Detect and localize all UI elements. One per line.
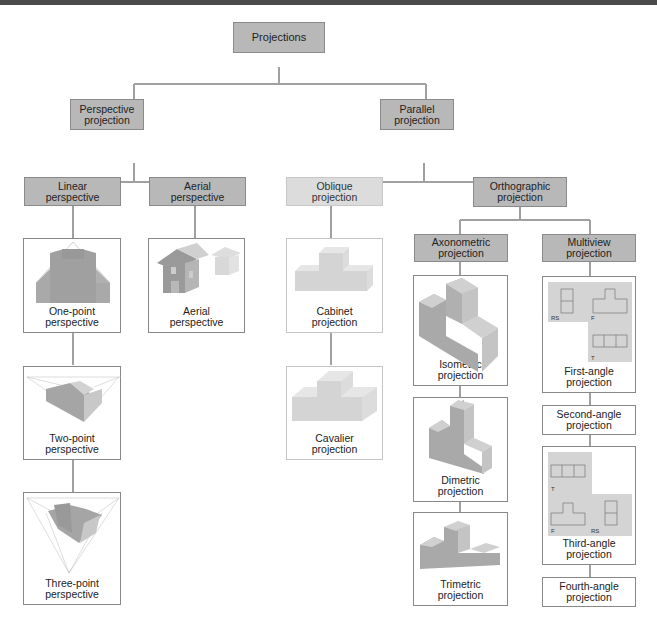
cabinet-projection-illustration	[287, 239, 384, 334]
axonometric-projection-box: Axonometric projection	[414, 234, 508, 262]
linear-perspective-box: Linear perspective	[24, 177, 121, 206]
rs-view-label: RS	[591, 528, 599, 534]
t-view-label: T	[591, 355, 595, 361]
aerial-perspective-card: Aerial perspective	[148, 238, 245, 333]
second-angle-projection-box: Second-angle projection	[542, 405, 636, 435]
aerial-perspective-illustration	[149, 239, 246, 334]
parallel-projection-label: Parallel projection	[390, 104, 445, 126]
third-angle-projection-illustration: T F RS	[543, 447, 637, 566]
cabinet-projection-card: Cabinet projection	[286, 238, 383, 333]
rs-view-label: RS	[551, 315, 559, 321]
dimetric-projection-card: Dimetric projection	[413, 397, 508, 502]
two-point-perspective-illustration	[24, 367, 122, 461]
one-point-perspective-illustration	[24, 239, 122, 334]
f-view-label: F	[551, 528, 555, 534]
parallel-projection-box: Parallel projection	[380, 99, 454, 130]
axonometric-projection-label: Axonometric projection	[421, 237, 501, 259]
first-angle-projection-illustration: RS F T	[543, 277, 637, 394]
dimetric-projection-illustration	[414, 398, 509, 503]
one-point-perspective-card: One-point perspective	[23, 238, 121, 333]
three-point-perspective-card: Three-point perspective	[23, 492, 121, 605]
isometric-projection-illustration	[414, 276, 509, 387]
fourth-angle-projection-box: Fourth-angle projection	[542, 577, 636, 607]
third-angle-projection-card: T F RS Third-angle projection	[542, 446, 636, 565]
oblique-projection-box: Oblique projection	[286, 177, 383, 206]
trimetric-projection-card: Trimetric projection	[413, 512, 508, 606]
root-box: Projections	[233, 22, 325, 53]
fourth-angle-projection-label: Fourth-angle projection	[554, 581, 624, 603]
t-view-label: T	[551, 486, 555, 492]
cavalier-projection-illustration	[287, 367, 384, 461]
cavalier-projection-card: Cavalier projection	[286, 366, 383, 460]
aerial-perspective-label: Aerial perspective	[165, 181, 231, 203]
perspective-projection-label: Perspective projection	[77, 104, 137, 126]
multiview-projection-box: Multiview projection	[542, 234, 636, 262]
perspective-projection-box: Perspective projection	[70, 99, 144, 130]
three-point-perspective-illustration	[24, 493, 122, 606]
trimetric-projection-illustration	[414, 513, 509, 607]
oblique-projection-label: Oblique projection	[305, 181, 365, 203]
f-view-label: F	[591, 315, 595, 321]
isometric-projection-card: Isometric projection	[413, 275, 508, 386]
first-angle-projection-card: RS F T First-angle projection	[542, 276, 636, 393]
linear-perspective-label: Linear perspective	[40, 181, 106, 203]
orthographic-projection-label: Orthographic projection	[480, 181, 560, 203]
orthographic-projection-box: Orthographic projection	[473, 177, 567, 207]
two-point-perspective-card: Two-point perspective	[23, 366, 121, 460]
second-angle-projection-label: Second-angle projection	[554, 409, 624, 431]
aerial-perspective-box: Aerial perspective	[149, 177, 246, 206]
multiview-projection-label: Multiview projection	[554, 237, 624, 259]
root-label: Projections	[252, 32, 306, 43]
